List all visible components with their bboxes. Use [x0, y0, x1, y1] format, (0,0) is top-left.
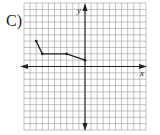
coordinate-graph: x y: [0, 0, 160, 135]
y-axis-label: y: [76, 5, 81, 15]
x-axis-label: x: [139, 68, 144, 78]
